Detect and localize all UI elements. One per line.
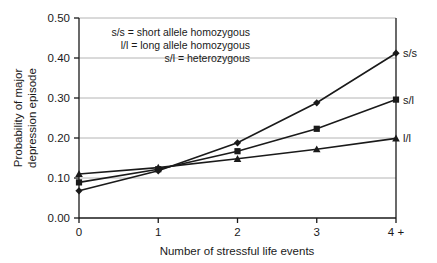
y-tick-label-0.30: 0.30 xyxy=(48,92,70,104)
legend-entry-0: s/s = short allele homozygous xyxy=(111,26,250,38)
marker-s-l-x0 xyxy=(76,179,82,185)
x-tick-label-0: 0 xyxy=(76,226,82,238)
y-tick-label-0.10: 0.10 xyxy=(48,172,70,184)
legend-entry-2: s/l = heterozygous xyxy=(164,52,250,64)
series-end-label-s-l: s/l xyxy=(403,94,414,106)
y-tick-label-0.00: 0.00 xyxy=(48,212,70,224)
x-tick-label-4+: 4 + xyxy=(388,226,405,238)
series-end-label-s-s: s/s xyxy=(403,47,418,59)
chart-figure: 0.000.100.200.300.400.50 01234 + s/ss/ll… xyxy=(0,0,437,263)
y-axis-title-line1: Probability of major xyxy=(12,69,24,168)
marker-s-l-x3 xyxy=(314,126,320,132)
line-chart: 0.000.100.200.300.400.50 01234 + s/ss/ll… xyxy=(0,0,437,263)
series-end-label-l-l: l/l xyxy=(403,132,411,144)
x-tick-label-1: 1 xyxy=(155,226,161,238)
legend-entry-1: l/l = long allele homozygous xyxy=(121,39,250,51)
x-tick-label-2: 2 xyxy=(234,226,240,238)
y-tick-label-0.20: 0.20 xyxy=(48,132,70,144)
x-axis-title: Number of stressful life events xyxy=(160,245,315,257)
x-tick-label-3: 3 xyxy=(314,226,320,238)
y-axis-title-line2: depression episode xyxy=(26,68,38,168)
y-tick-label-0.40: 0.40 xyxy=(48,52,70,64)
marker-s-l-x4 xyxy=(393,97,399,103)
marker-s-l-x2 xyxy=(234,148,240,154)
y-tick-label-0.50: 0.50 xyxy=(48,12,70,24)
